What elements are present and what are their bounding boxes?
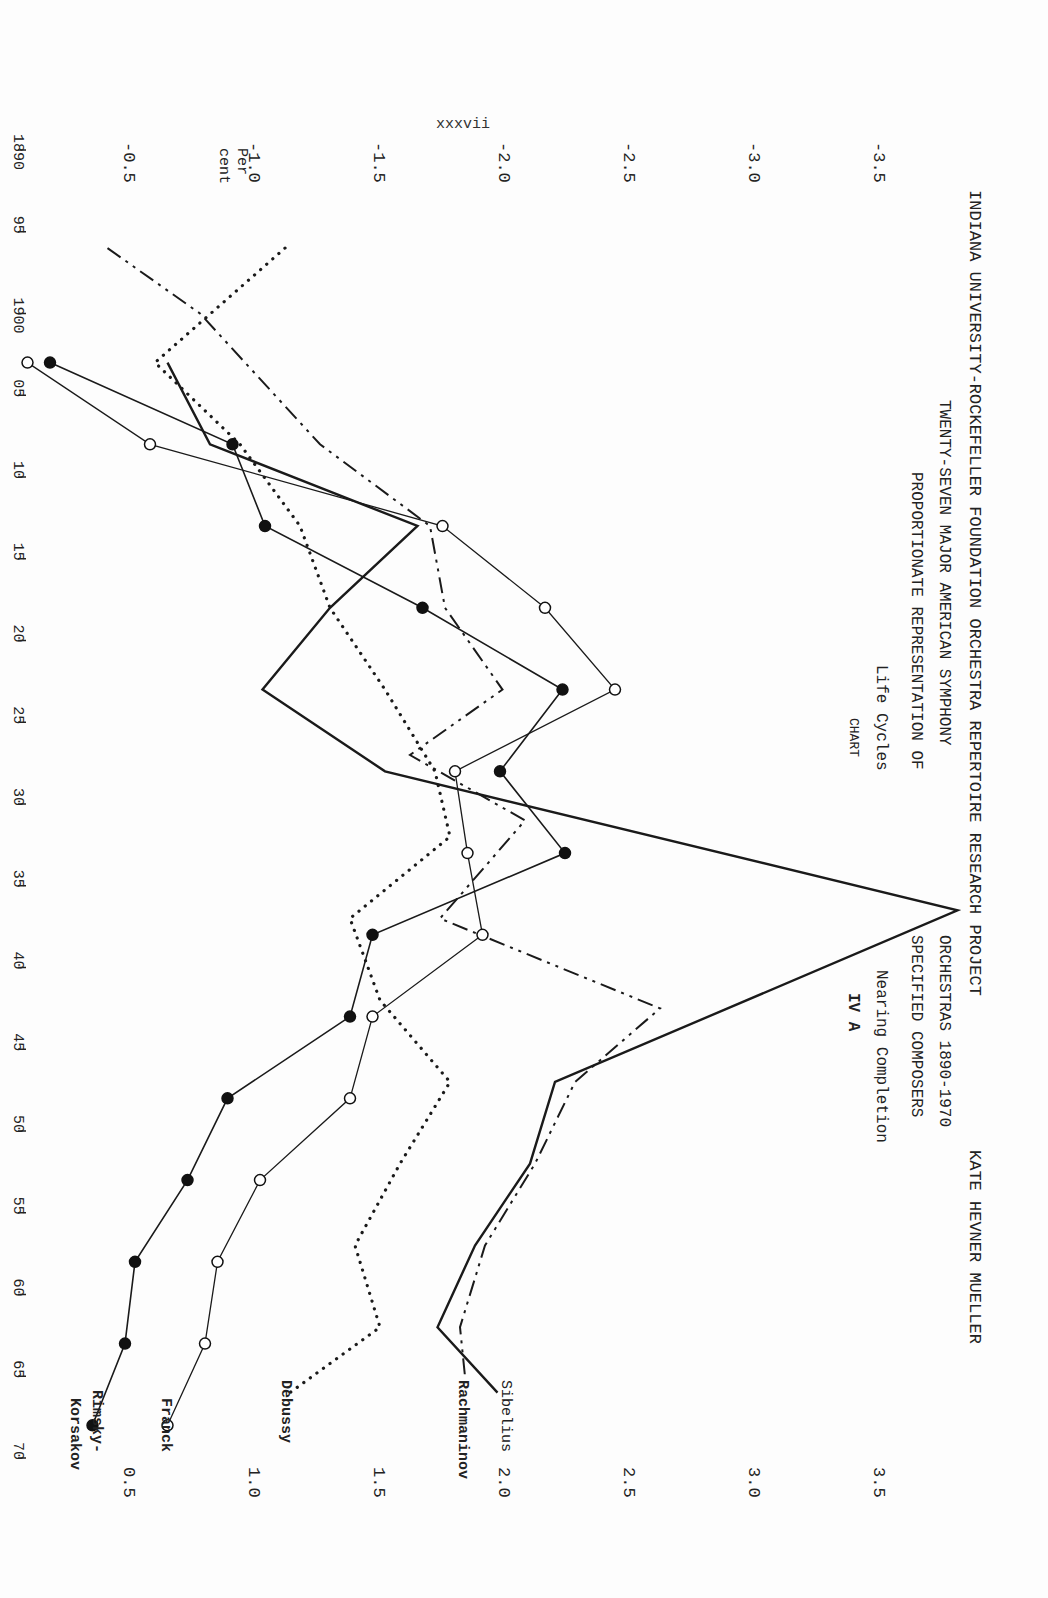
x-tick-label: 1890	[9, 134, 26, 170]
open-circle-marker-icon	[540, 602, 551, 613]
header-line-2-right: ORCHESTRAS 1890-1970	[935, 935, 953, 1127]
series-line	[108, 248, 661, 1376]
x-tick-label: 45	[9, 1033, 26, 1051]
y-tick-right: 0.5	[119, 1467, 138, 1498]
open-circle-marker-icon	[22, 357, 33, 368]
filled-circle-marker-icon	[557, 684, 568, 695]
filled-circle-marker-icon	[45, 357, 56, 368]
chart-header: INDIANA UNIVERSITY-ROCKEFELLER FOUNDATIO…	[844, 190, 984, 1344]
open-circle-marker-icon	[255, 1175, 266, 1186]
x-tick-label: 50	[9, 1115, 26, 1133]
x-tick-label: 20	[9, 625, 26, 643]
data-series	[22, 248, 958, 1431]
filled-circle-marker-icon	[417, 602, 428, 613]
series-labels: Sibelius Rachmaninov Debussy Franck Rims…	[66, 1380, 514, 1479]
x-tick-label: 70	[9, 1442, 26, 1460]
open-circle-marker-icon	[200, 1338, 211, 1349]
header-author: KATE HEVNER MUELLER	[965, 1150, 984, 1344]
x-tick-label: 40	[9, 952, 26, 970]
series-line	[168, 363, 958, 1393]
open-circle-marker-icon	[145, 439, 156, 450]
series-line	[155, 248, 450, 1393]
y-tick-left: -2.0	[494, 142, 513, 183]
filled-circle-marker-icon	[560, 848, 571, 859]
y-axis-right-ticks: 0.51.01.52.02.53.03.5	[119, 1467, 888, 1498]
x-tick-label: 1900	[9, 298, 26, 334]
header-line-1: INDIANA UNIVERSITY-ROCKEFELLER FOUNDATIO…	[965, 190, 984, 996]
header-line-5-left: CHART	[846, 718, 861, 757]
open-circle-marker-icon	[437, 521, 448, 532]
x-tick-label: 35	[9, 870, 26, 888]
open-circle-marker-icon	[450, 766, 461, 777]
y-tick-left: -3.5	[869, 142, 888, 183]
open-circle-marker-icon	[367, 1011, 378, 1022]
label-rimsky-korsakov-2: Korsakov	[66, 1398, 83, 1470]
header-line-3-right: SPECIFIED COMPOSERS	[907, 935, 925, 1117]
filled-circle-marker-icon	[227, 439, 238, 450]
y-tick-right: 1.0	[244, 1467, 263, 1498]
x-tick-label: 05	[9, 379, 26, 397]
series-rimsky-korsakov	[45, 357, 571, 1431]
header-line-4-right: Nearing Completion	[872, 970, 890, 1143]
filled-circle-marker-icon	[120, 1338, 131, 1349]
x-tick-label: 55	[9, 1197, 26, 1215]
y-title-cent: cent	[215, 148, 232, 184]
series-rachmaninov	[108, 248, 661, 1376]
x-axis-ticks: 18909519000510152025303540455055606570	[9, 134, 26, 1460]
header-line-2-left: TWENTY-SEVEN MAJOR AMERICAN SYMPHONY	[935, 400, 953, 746]
y-tick-right: 3.0	[744, 1467, 763, 1498]
chart-page: xxxvii INDIANA UNIVERSITY-ROCKEFELLER FO…	[0, 0, 1048, 1598]
y-tick-right: 2.5	[619, 1467, 638, 1498]
y-tick-left: -1.0	[244, 142, 263, 183]
filled-circle-marker-icon	[260, 521, 271, 532]
filled-circle-marker-icon	[130, 1256, 141, 1267]
x-tick-label: 65	[9, 1360, 26, 1378]
open-circle-marker-icon	[477, 929, 488, 940]
x-tick-label: 25	[9, 706, 26, 724]
life-cycles-chart: INDIANA UNIVERSITY-ROCKEFELLER FOUNDATIO…	[0, 0, 1048, 1598]
label-rachmaninov: Rachmaninov	[454, 1380, 471, 1479]
label-debussy: Debussy	[277, 1380, 294, 1443]
header-line-3-left: PROPORTIONATE REPRESENTATION OF	[907, 472, 925, 770]
x-tick-label: 95	[9, 216, 26, 234]
open-circle-marker-icon	[212, 1256, 223, 1267]
label-rimsky-korsakov-1: Rimsky-	[88, 1390, 105, 1453]
x-tick-label: 15	[9, 543, 26, 561]
series-franck	[22, 357, 621, 1431]
y-tick-right: 3.5	[869, 1467, 888, 1498]
series-sibelius	[168, 363, 958, 1393]
y-tick-left: -0.5	[119, 142, 138, 183]
label-franck: Franck	[157, 1398, 174, 1452]
open-circle-marker-icon	[462, 848, 473, 859]
x-tick-label: 10	[9, 461, 26, 479]
y-tick-left: -1.5	[369, 142, 388, 183]
y-tick-left: -2.5	[619, 142, 638, 183]
filled-circle-marker-icon	[495, 766, 506, 777]
open-circle-marker-icon	[345, 1093, 356, 1104]
y-tick-right: 1.5	[369, 1467, 388, 1498]
series-line	[28, 363, 616, 1426]
header-line-4-left: Life Cycles	[872, 665, 890, 771]
x-tick-label: 60	[9, 1279, 26, 1297]
series-line	[50, 363, 565, 1426]
x-tick-label: 30	[9, 788, 26, 806]
filled-circle-marker-icon	[222, 1093, 233, 1104]
filled-circle-marker-icon	[182, 1175, 193, 1186]
series-debussy	[155, 248, 450, 1393]
label-sibelius: Sibelius	[497, 1380, 514, 1452]
open-circle-marker-icon	[610, 684, 621, 695]
header-line-5-right: IV A	[844, 993, 862, 1032]
filled-circle-marker-icon	[367, 929, 378, 940]
y-tick-left: -3.0	[744, 142, 763, 183]
y-tick-right: 2.0	[494, 1467, 513, 1498]
filled-circle-marker-icon	[345, 1011, 356, 1022]
